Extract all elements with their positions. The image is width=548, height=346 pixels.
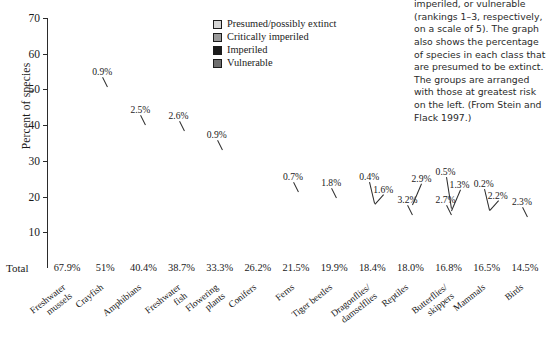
- segment-callout-label: 1.8%: [321, 177, 341, 188]
- segment-callout-label: 2.9%: [411, 173, 431, 184]
- segment-callout-label: 0.5%: [436, 166, 456, 177]
- stacked-bar-chart-figure: Percent of species 10203040506070 0.9%2.…: [0, 0, 548, 346]
- legend-swatch: [213, 33, 222, 42]
- y-axis-tick-label: 30: [10, 155, 40, 167]
- segment-callout-label: 1.6%: [373, 184, 393, 195]
- legend-item: Critically imperiled: [213, 31, 336, 43]
- segment-callout-label: 2.3%: [512, 196, 532, 207]
- bar-7: [320, 197, 348, 268]
- y-axis-tick-label: 60: [10, 48, 40, 60]
- legend-label: Vulnerable: [227, 58, 273, 68]
- segment-callout-label: 0.9%: [207, 129, 227, 140]
- y-axis-tick-label: 70: [10, 12, 40, 24]
- segment-callout-label: 1.3%: [450, 179, 470, 190]
- y-axis-tick-label: 20: [10, 191, 40, 203]
- legend-item: Presumed/possibly extinct: [213, 18, 336, 30]
- y-axis-tick-label: 40: [10, 119, 40, 131]
- legend-label: Imperiled: [227, 45, 267, 55]
- y-axis-tick-label: 10: [10, 226, 40, 238]
- segment-callout-label: 0.9%: [92, 66, 112, 77]
- bar-6: [282, 191, 310, 268]
- bar-3: [168, 130, 196, 268]
- segment-callout-label: 0.7%: [283, 171, 303, 182]
- bar-2: [129, 124, 157, 268]
- segment-callout-label: 2.5%: [130, 104, 150, 115]
- bar-4: [206, 149, 234, 268]
- totals-row-label: Total: [6, 262, 28, 274]
- y-axis-tick-label: 50: [10, 83, 40, 95]
- chart-legend: Presumed/possibly extinctCritically impe…: [213, 18, 336, 70]
- legend-label: Presumed/possibly extinct: [227, 19, 336, 29]
- total-value: 14.5%: [503, 262, 547, 273]
- legend-swatch: [213, 20, 222, 29]
- segment-callout-label: 0.2%: [474, 178, 494, 189]
- legend-swatch: [213, 46, 222, 55]
- legend-label: Critically imperiled: [227, 32, 309, 42]
- legend-swatch: [213, 59, 222, 68]
- legend-item: Imperiled: [213, 44, 336, 56]
- x-axis-category-labels: Freshwater musselsCrayfishAmphibiansFres…: [0, 280, 548, 346]
- bar-12: [511, 216, 539, 268]
- bar-0: [53, 26, 81, 269]
- bar-8: [358, 202, 386, 268]
- legend-item: Vulnerable: [213, 57, 336, 69]
- bar-1: [91, 86, 119, 268]
- figure-caption: imperiled, or vulnerable (rankings 1–3, …: [414, 0, 548, 124]
- bar-11: [473, 209, 501, 268]
- totals-row: Total 67.9%51%40.4%38.7%33.3%26.2%21.5%1…: [0, 262, 548, 278]
- y-axis: 10203040506070: [38, 18, 48, 268]
- segment-callout-label: 0.4%: [359, 171, 379, 182]
- bar-5: [244, 174, 272, 268]
- bar-10: [435, 208, 463, 268]
- segment-callout-label: 2.6%: [169, 110, 189, 121]
